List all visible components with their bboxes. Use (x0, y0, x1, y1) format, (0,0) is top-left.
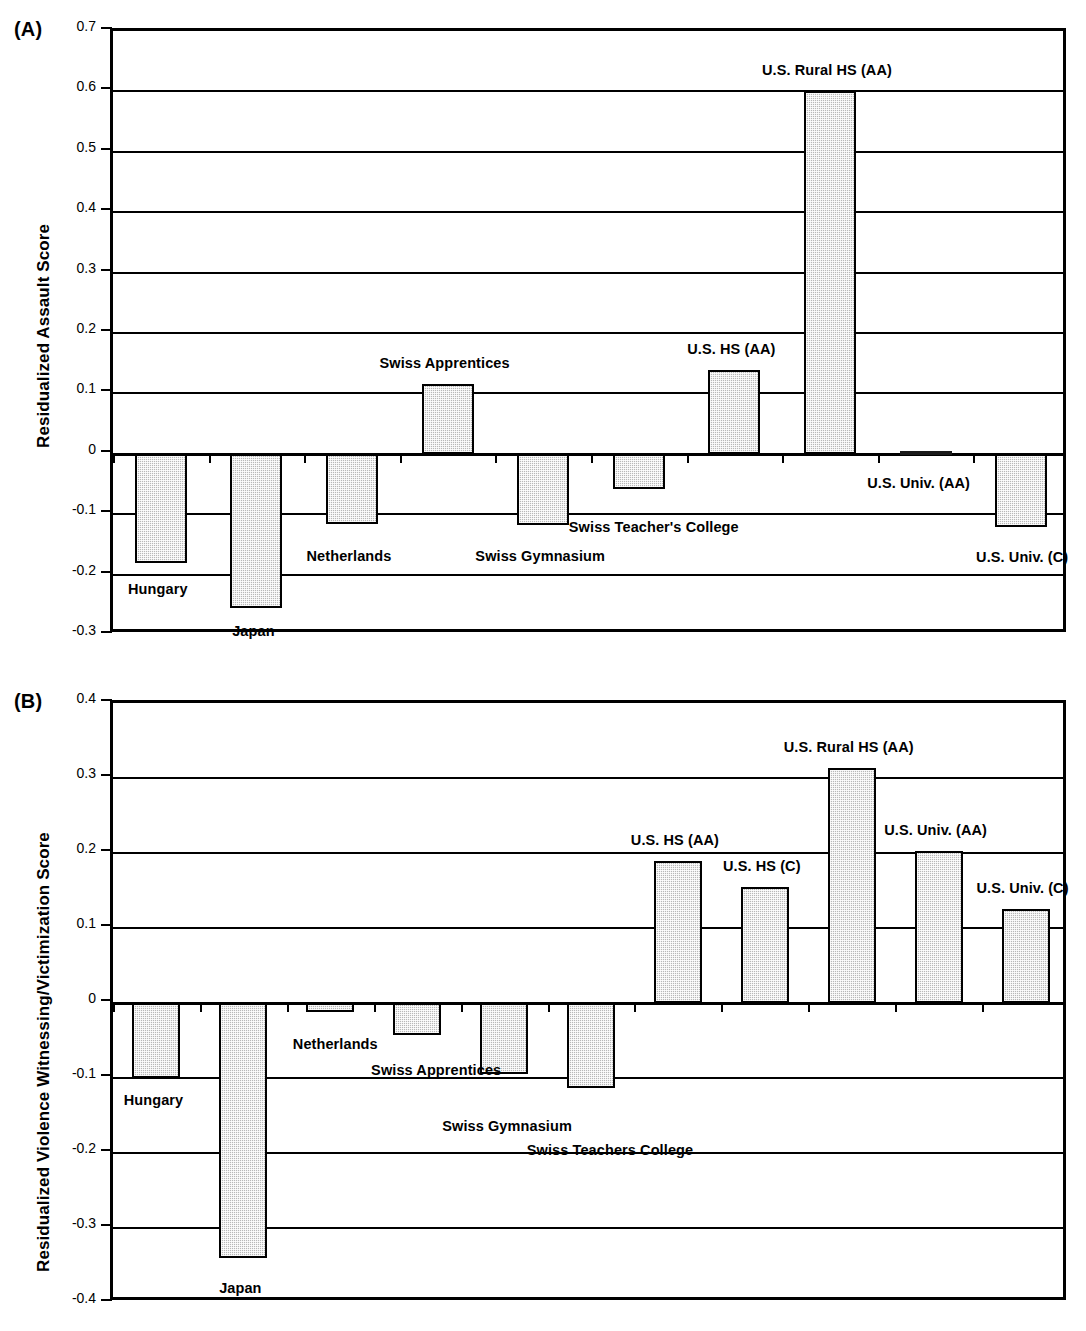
y-tick-label: -0.2 (72, 1140, 96, 1156)
x-tick-mark (982, 1003, 984, 1012)
gridline (113, 332, 1063, 334)
x-tick-mark (287, 1003, 289, 1012)
bar (613, 454, 665, 489)
y-tick-label: 0.5 (77, 139, 96, 155)
y-tick-label: 0.2 (77, 840, 96, 856)
x-tick-mark (461, 1003, 463, 1012)
bar (900, 451, 952, 455)
bar-label: U.S. Rural HS (AA) (784, 739, 914, 755)
bar-label: Swiss Teacher's College (569, 519, 739, 535)
panel-a-plot-area (110, 28, 1066, 632)
x-tick-mark (721, 1003, 723, 1012)
bar-label: Japan (219, 1280, 261, 1296)
y-tick-label: -0.4 (72, 1290, 96, 1306)
bar (828, 768, 876, 1003)
bar-label: Netherlands (307, 548, 392, 564)
bar (135, 454, 187, 563)
panel-a-y-axis-title: Residualized Assault Score (34, 224, 54, 448)
y-tick-label: 0.1 (77, 915, 96, 931)
bar-label: Japan (232, 623, 274, 639)
x-tick-mark (548, 1003, 550, 1012)
bar-label: U.S. Univ. (AA) (884, 822, 987, 838)
bar (219, 1003, 267, 1258)
x-tick-mark (634, 1003, 636, 1012)
bar-label: U.S. Univ. (AA) (867, 475, 970, 491)
bar-label: U.S. HS (C) (723, 858, 801, 874)
x-tick-mark (808, 1003, 810, 1012)
x-tick-mark (895, 1003, 897, 1012)
bar (804, 91, 856, 453)
x-tick-mark (113, 1003, 115, 1012)
y-tick-label: 0.3 (77, 260, 96, 276)
bar (393, 1003, 441, 1035)
y-tick-label: 0.6 (77, 78, 96, 94)
gridline (113, 272, 1063, 274)
bar (230, 454, 282, 608)
y-tick-label: 0.2 (77, 320, 96, 336)
bar (422, 384, 474, 454)
bar-label: Swiss Apprentices (371, 1062, 501, 1078)
bar-label: Swiss Gymnasium (442, 1118, 572, 1134)
bar-label: Netherlands (293, 1036, 378, 1052)
y-tick-label: 0 (88, 990, 96, 1006)
bar-label: Swiss Apprentices (380, 355, 510, 371)
bar (132, 1003, 180, 1078)
x-tick-mark (209, 454, 211, 463)
x-tick-mark (973, 454, 975, 463)
bar (741, 887, 789, 1003)
bar (567, 1003, 615, 1088)
bar-label: Hungary (128, 581, 188, 597)
bar (1002, 909, 1050, 1003)
gridline (113, 777, 1063, 779)
bar (995, 454, 1047, 528)
bar-label: U.S. HS (AA) (631, 832, 719, 848)
bar-label: Swiss Gymnasium (475, 548, 605, 564)
bottom-caption-strip (0, 1317, 1086, 1331)
bar (517, 454, 569, 525)
bar (306, 1003, 354, 1012)
panel-b: (B) Residualized Violence Witnessing/Vic… (0, 660, 1086, 1331)
bar-label: U.S. Rural HS (AA) (762, 62, 892, 78)
bar-label: Swiss Teachers College (527, 1142, 693, 1158)
x-tick-mark (304, 454, 306, 463)
y-tick-label: 0 (88, 441, 96, 457)
panel-b-y-axis-title: Residualized Violence Witnessing/Victimi… (34, 832, 54, 1272)
y-tick-label: -0.3 (72, 622, 96, 638)
bar-label: U.S. Univ. (C) (976, 880, 1068, 896)
y-tick-label: 0.3 (77, 765, 96, 781)
x-tick-mark (495, 454, 497, 463)
panel-a-letter: (A) (14, 18, 42, 41)
y-tick-label: -0.2 (72, 562, 96, 578)
panel-a: (A) Residualized Assault Score 0.70.60.5… (0, 0, 1086, 660)
x-tick-mark (200, 1003, 202, 1012)
panel-b-letter: (B) (14, 690, 42, 713)
x-tick-mark (687, 454, 689, 463)
y-tick-label: -0.1 (72, 1065, 96, 1081)
panel-b-plot-area (110, 700, 1066, 1300)
y-tick-label: -0.1 (72, 501, 96, 517)
y-tick-label: 0.4 (77, 690, 96, 706)
y-tick-label: 0.7 (77, 18, 96, 34)
x-tick-mark (374, 1003, 376, 1012)
bar (326, 454, 378, 524)
y-tick-label: -0.3 (72, 1215, 96, 1231)
y-tick-label: 0.4 (77, 199, 96, 215)
x-tick-mark (400, 454, 402, 463)
bar-label: Hungary (124, 1092, 184, 1108)
gridline (113, 392, 1063, 394)
x-tick-mark (113, 454, 115, 463)
gridline (113, 211, 1063, 213)
bar (654, 861, 702, 1004)
gridline (113, 90, 1063, 92)
x-tick-mark (878, 454, 880, 463)
gridline (113, 151, 1063, 153)
bar (708, 370, 760, 453)
x-tick-mark (782, 454, 784, 463)
bar-label: U.S. Univ. (C) (976, 549, 1068, 565)
x-tick-mark (591, 454, 593, 463)
bar (915, 851, 963, 1003)
bar-label: U.S. HS (AA) (687, 341, 775, 357)
y-tick-label: 0.1 (77, 380, 96, 396)
